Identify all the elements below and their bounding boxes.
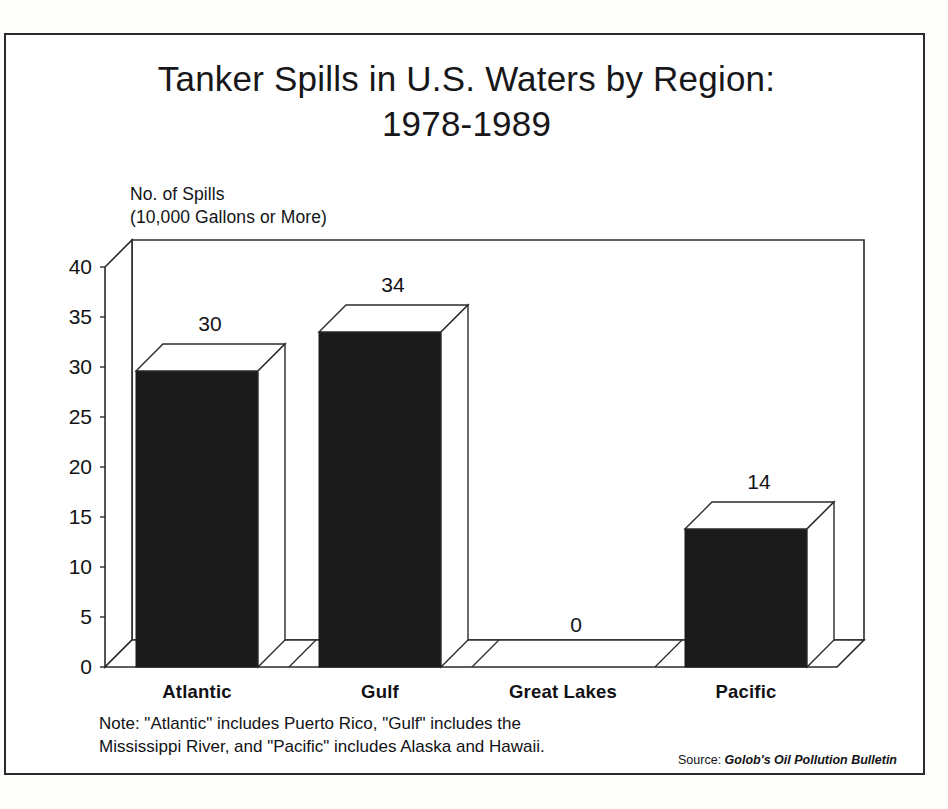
plot-left-wall	[105, 240, 132, 667]
ytick-label-5: 5	[46, 605, 92, 629]
ytick-label-15: 15	[46, 505, 92, 529]
bar-front-pacific	[685, 529, 807, 667]
category-label-pacific: Pacific	[715, 681, 776, 703]
bar-value-label-pacific: 14	[747, 470, 770, 494]
bar-value-label-gulf: 34	[381, 273, 404, 297]
bar-front-atlantic	[136, 371, 258, 667]
chart-plot-area: 40 35 30 25 20 15 10 5 0 30 34 0 14 Atla…	[6, 35, 927, 777]
category-label-great-lakes: Great Lakes	[509, 681, 617, 703]
ytick-label-30: 30	[46, 355, 92, 379]
chart-note: Note: "Atlantic" includes Puerto Rico, "…	[99, 713, 545, 758]
ytick-label-40: 40	[46, 255, 92, 279]
figure-frame: Tanker Spills in U.S. Waters by Region: …	[4, 33, 925, 775]
bar-side-pacific	[807, 502, 834, 667]
category-label-atlantic: Atlantic	[162, 681, 231, 703]
bar-side-gulf	[441, 305, 468, 667]
bar-value-label-great-lakes: 0	[570, 613, 582, 637]
ytick-label-25: 25	[46, 405, 92, 429]
bar-front-gulf	[319, 332, 441, 667]
ytick-label-0: 0	[46, 655, 92, 679]
ytick-label-35: 35	[46, 305, 92, 329]
category-label-gulf: Gulf	[361, 681, 399, 703]
ytick-label-10: 10	[46, 555, 92, 579]
bar-value-label-atlantic: 30	[198, 312, 221, 336]
bar-side-atlantic	[258, 344, 285, 667]
ytick-label-20: 20	[46, 455, 92, 479]
source-prefix-label: Source:	[678, 753, 725, 767]
source-title-label: Golob's Oil Pollution Bulletin	[725, 753, 897, 767]
chart-svg	[6, 35, 927, 777]
chart-source: Source: Golob's Oil Pollution Bulletin	[678, 753, 897, 767]
figure-page: Tanker Spills in U.S. Waters by Region: …	[0, 0, 948, 809]
